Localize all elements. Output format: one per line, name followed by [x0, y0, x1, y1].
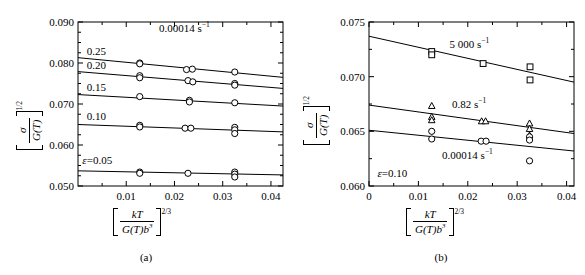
panel-a-x-tick-label: 0.01: [106, 191, 146, 202]
y-axis-numerator-a: σ: [17, 118, 30, 143]
panel-a-y-tick-label: 0.070: [36, 99, 74, 110]
x-axis-numerator-a: kT: [120, 209, 154, 222]
y-axis-bracket-b: σG(T): [303, 106, 330, 145]
panel-b-y-tick-label: 0.070: [327, 72, 365, 83]
panel-a-y-tick-label: 0.080: [36, 58, 74, 69]
panel-b-x-tick-label: 0.02: [448, 191, 488, 202]
x-axis-exponent-b: 2/3: [454, 207, 464, 216]
data-point: [527, 64, 533, 70]
data-point: [137, 124, 143, 130]
curve-label-010: 0.10: [87, 111, 106, 122]
data-point: [526, 158, 532, 164]
panel-b-x-tick-label: 0.01: [398, 191, 438, 202]
series-label-082: 0.82 s−1: [452, 99, 486, 110]
x-axis-numerator-b: kT: [413, 209, 447, 222]
panel-a-y-tick-label: 0.090: [36, 17, 74, 28]
panel-b-x-tick-label: 0.04: [547, 191, 585, 202]
series-label-000014: 0.00014 s−1: [442, 150, 493, 161]
panel-a-x-tick-label: 0.03: [203, 191, 243, 202]
data-point: [137, 94, 143, 100]
series-label-5000: 5 000 s−1: [450, 39, 490, 50]
x-axis-bracket-a: kTG(T)b3: [113, 208, 161, 236]
curve-label-015: 0.15: [87, 82, 106, 93]
data-point: [232, 69, 238, 75]
data-point: [232, 130, 238, 136]
data-point: [137, 170, 143, 176]
data-point: [232, 82, 238, 88]
y-axis-exponent-a: 1/2: [15, 101, 24, 111]
y-axis-numerator-b: σ: [304, 113, 317, 138]
strain-annotation-epsilon-010: ε=0.10: [377, 168, 407, 179]
panel-b-y-axis-label: σG(T)1/2: [303, 96, 330, 145]
data-point: [190, 79, 196, 85]
y-axis-exponent-b: 1/2: [302, 96, 311, 106]
figure-container: σG(T)1/2 kTG(T)b32/3 (a) 0.0900.0800.070…: [0, 0, 585, 275]
panel-b-caption: (b): [421, 252, 461, 263]
x-axis-denominator-b: G(T)b3: [413, 222, 447, 235]
panel-b: σG(T)1/2 kTG(T)b32/3 (b) 0.0750.0700.065…: [293, 0, 585, 275]
data-point: [188, 125, 194, 131]
data-point: [185, 170, 191, 176]
x-axis-denominator-a: G(T)b3: [120, 222, 154, 235]
data-point: [526, 137, 532, 143]
data-point: [429, 128, 435, 134]
x-axis-exponent-a: 2/3: [161, 207, 171, 216]
data-point: [189, 66, 195, 72]
data-point: [480, 61, 486, 67]
data-point: [483, 138, 489, 144]
panel-a-x-tick-label: 0.02: [154, 191, 194, 202]
panel-b-y-tick-label: 0.065: [327, 126, 365, 137]
panel-a-y-tick-label: 0.050: [36, 181, 74, 192]
panel-b-x-tick-label: 0.03: [497, 191, 537, 202]
panel-a-caption: (a): [126, 252, 166, 263]
data-point: [527, 77, 533, 83]
x-axis-bracket-b: kTG(T)b3: [406, 208, 454, 236]
panel-b-x-tick-label: 0: [349, 191, 389, 202]
strain-rate-annotation: 0.00014 s−1: [159, 23, 210, 34]
data-point: [182, 125, 188, 131]
data-point: [232, 100, 238, 106]
panel-b-x-axis-label: kTG(T)b32/3: [406, 208, 464, 236]
data-point: [429, 52, 435, 58]
data-point: [232, 174, 238, 180]
curve-label-epsilon-005: ε=0.05: [82, 155, 112, 166]
curve-label-025: 0.25: [87, 46, 106, 57]
curve-label-020: 0.20: [87, 60, 106, 71]
panel-a: σG(T)1/2 kTG(T)b32/3 (a) 0.0900.0800.070…: [0, 0, 292, 275]
data-point: [183, 66, 189, 72]
panel-a-x-tick-label: 0.04: [251, 191, 291, 202]
panel-a-y-tick-label: 0.060: [36, 140, 74, 151]
data-point: [137, 61, 143, 67]
panel-a-x-axis-label: kTG(T)b32/3: [113, 208, 171, 236]
data-point: [428, 102, 435, 108]
panel-b-y-tick-label: 0.075: [327, 17, 365, 28]
data-point: [186, 99, 192, 105]
data-point: [429, 136, 435, 142]
data-point: [137, 75, 143, 81]
